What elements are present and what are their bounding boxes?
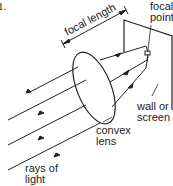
- figure-number: 1.: [0, 0, 7, 12]
- wall-label-2: screen: [137, 111, 170, 123]
- convex-lens: [64, 46, 124, 129]
- lens-label-2: lens: [96, 135, 117, 147]
- rays-label-2: light: [25, 173, 45, 185]
- convex-lens-diagram: 1. focal length focal point: [0, 0, 173, 186]
- focal-point-label-2: point: [150, 11, 173, 23]
- incoming-rays: [8, 67, 100, 170]
- wall-leader: [152, 84, 158, 96]
- wall-screen: [124, 20, 172, 110]
